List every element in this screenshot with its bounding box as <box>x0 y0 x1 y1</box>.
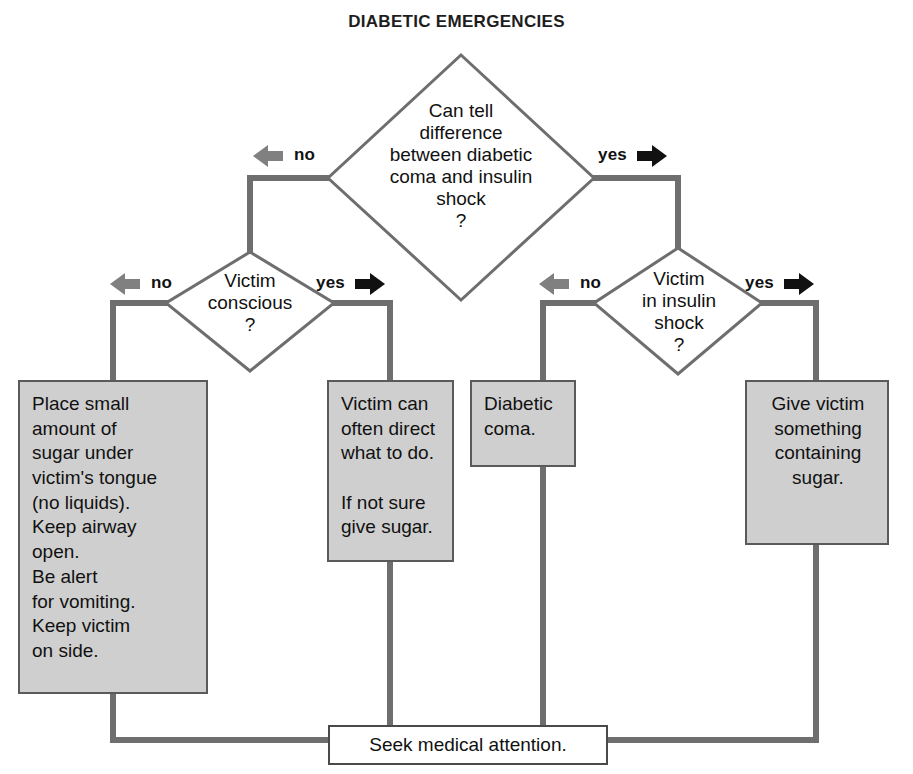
edge-left-no <box>113 303 168 381</box>
branch-label-top-no: no <box>294 145 315 165</box>
arrow-left-icon-right-no <box>539 273 569 295</box>
terminal-box-seek-medical-attention: Seek medical attention. <box>328 725 608 765</box>
decision-label-victim-in-insulin-shock: Victim in insulin shock ? <box>608 268 750 356</box>
arrow-left-icon-left-no <box>110 273 140 295</box>
branch-label-right-yes: yes <box>745 273 774 293</box>
edge-box4-to-terminal <box>607 545 816 740</box>
branch-label-left-no: no <box>151 273 172 293</box>
decision-label-victim-conscious: Victim conscious ? <box>185 270 315 336</box>
action-box-give-something-with-sugar: Give victim something containing sugar. <box>745 380 889 545</box>
action-box-diabetic-coma: Diabetic coma. <box>470 380 576 467</box>
edge-right-no <box>543 303 598 381</box>
edge-right-yes <box>760 303 816 381</box>
branch-label-right-no: no <box>580 273 601 293</box>
arrow-right-icon-left-yes <box>355 273 385 295</box>
arrow-right-icon-right-yes <box>784 273 814 295</box>
decision-label-can-tell-difference: Can tell difference between diabetic com… <box>351 100 571 232</box>
edge-box1-to-terminal <box>113 694 329 740</box>
page-title: DIABETIC EMERGENCIES <box>0 12 913 32</box>
edge-top-yes <box>568 178 678 252</box>
branch-label-left-yes: yes <box>316 273 345 293</box>
flowchart-canvas: DIABETIC EMERGENCIES Can tell difference… <box>0 0 913 774</box>
branch-label-top-yes: yes <box>598 145 627 165</box>
arrow-left-icon-top-no <box>253 145 283 167</box>
arrow-right-icon-top-yes <box>637 145 667 167</box>
action-box-place-sugar-under-tongue: Place small amount of sugar under victim… <box>18 380 208 694</box>
action-box-victim-can-direct: Victim can often direct what to do. If n… <box>327 380 454 562</box>
edge-left-yes <box>332 303 390 381</box>
